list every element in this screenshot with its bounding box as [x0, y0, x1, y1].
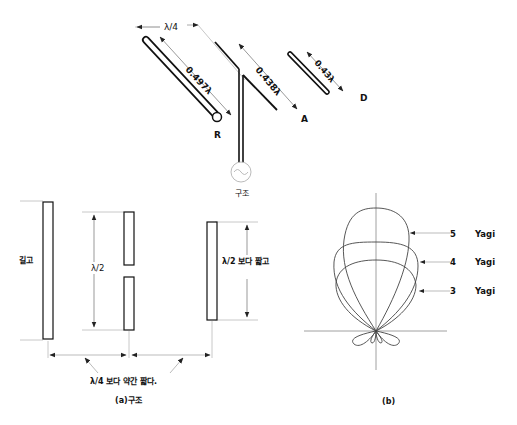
pattern-caption: (b)	[382, 397, 395, 406]
ac-source-icon	[231, 162, 251, 182]
legend-count-4: 4	[450, 257, 456, 267]
spacing-note: λ/4 보다 약간 짧다.	[90, 376, 157, 386]
legend-count-3: 3	[450, 286, 456, 296]
driven-element	[215, 42, 277, 163]
director-note: λ/2 보다 짧고	[222, 256, 270, 266]
driven-length-label: 0.438λ	[253, 65, 283, 98]
structure-diagram: 길고 λ/2 λ/2 보다 짧고 λ/4 보다 약간 짧다. (a)구조	[19, 201, 278, 405]
reflector-rod	[43, 202, 53, 339]
reflector-note: 길고	[19, 255, 34, 265]
radiation-pattern-diagram: 5 Yagi 4 Yagi 3 Yagi (b)	[304, 193, 495, 406]
driven-rod-lower	[124, 277, 134, 330]
driven-rod-upper	[124, 212, 134, 265]
source-caption: 구조	[235, 189, 249, 198]
legend-name-3: Yagi	[474, 286, 495, 296]
legend-name-4: Yagi	[474, 257, 495, 267]
driven-length-label: λ/2	[91, 263, 104, 273]
reflector-element	[146, 40, 222, 122]
legend-name-5: Yagi	[474, 229, 495, 239]
structure-caption: (a)구조	[115, 396, 143, 405]
spacing-label: λ/4	[164, 22, 178, 32]
director-label: D	[360, 93, 367, 103]
driven-label: A	[301, 114, 308, 124]
reflector-label: R	[214, 130, 221, 140]
director-rod	[207, 222, 217, 320]
legend-count-5: 5	[450, 229, 456, 239]
yagi-perspective-diagram: λ/4 0.497λ R 0.438λ A 구조	[135, 22, 367, 198]
